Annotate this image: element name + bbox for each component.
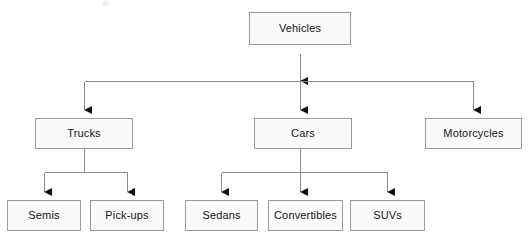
node-label-sedans: Sedans — [202, 210, 240, 222]
node-label-semis: Semis — [28, 210, 59, 222]
node-semis[interactable]: Semis — [7, 200, 81, 231]
node-sedans[interactable]: Sedans — [185, 200, 258, 231]
node-label-cars: Cars — [291, 128, 315, 140]
node-convertibles[interactable]: Convertibles — [268, 200, 343, 231]
node-motorcycles[interactable]: Motorcycles — [425, 118, 522, 149]
scan-artifact-speck — [102, 1, 109, 6]
node-label-motorcycles: Motorcycles — [443, 128, 503, 140]
node-label-trucks: Trucks — [67, 128, 101, 140]
node-label-pickups: Pick-ups — [105, 210, 148, 222]
node-pickups[interactable]: Pick-ups — [90, 200, 164, 231]
node-label-suvs: SUVs — [373, 210, 402, 222]
node-suvs[interactable]: SUVs — [350, 200, 425, 231]
node-label-convertibles: Convertibles — [274, 210, 337, 222]
node-trucks[interactable]: Trucks — [35, 118, 133, 149]
node-vehicles[interactable]: Vehicles — [249, 12, 351, 45]
node-label-vehicles: Vehicles — [279, 23, 321, 35]
node-cars[interactable]: Cars — [254, 118, 352, 149]
diagram-canvas: Vehicles Trucks Cars Motorcycles Semis P… — [0, 0, 530, 238]
